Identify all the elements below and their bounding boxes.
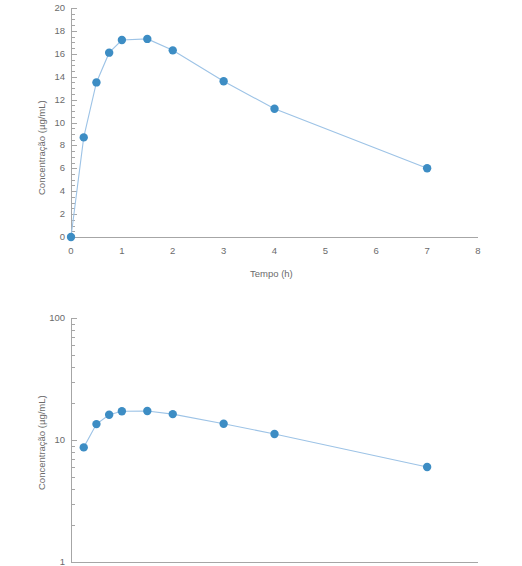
linear-data-point	[143, 35, 151, 43]
linear-data-point	[80, 133, 88, 141]
linear-data-point	[118, 36, 126, 44]
figure-container: Concentração (µg/mL) Tempo (h) 024681012…	[0, 0, 522, 566]
linear-data-point	[92, 78, 100, 86]
linear-series-line	[71, 39, 427, 237]
semilog-data-point	[80, 443, 88, 451]
semilog-data-point	[219, 420, 227, 428]
semilog-data-point	[105, 411, 113, 419]
linear-data-point	[423, 164, 431, 172]
semilog-plot-area	[0, 300, 522, 566]
linear-data-point	[105, 48, 113, 56]
linear-chart: Concentração (µg/mL) Tempo (h) 024681012…	[0, 0, 522, 290]
semilog-data-point	[118, 407, 126, 415]
linear-plot-area	[0, 0, 522, 290]
semilog-series-line	[84, 411, 427, 467]
semilog-data-point	[92, 420, 100, 428]
semilog-data-point	[143, 407, 151, 415]
semilog-chart: Concentração (µg/mL) 110100	[0, 300, 522, 566]
semilog-data-point	[423, 463, 431, 471]
linear-data-point	[219, 77, 227, 85]
linear-data-point	[270, 105, 278, 113]
semilog-data-point	[169, 410, 177, 418]
linear-data-point	[169, 46, 177, 54]
linear-data-point	[67, 233, 75, 241]
semilog-data-point	[270, 430, 278, 438]
